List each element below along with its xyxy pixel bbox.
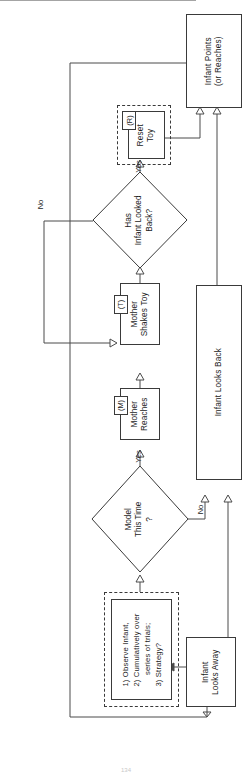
node-model-this-time[interactable]: Model This Time ? [92, 466, 188, 572]
flowchart-canvas: Infant Points (or Reaches) Reset Toy (R)… [0, 0, 252, 777]
node-mother-shakes-toy[interactable]: Mother Shakes Toy [120, 283, 160, 345]
node-mother-reaches-label: Mother Reaches [130, 397, 151, 431]
node-infant-points-label: Infant Points (or Reaches) [204, 36, 225, 86]
tag-mother-reaches: (M) [114, 396, 128, 415]
node-has-infant-looked-back-label: Has Infant Looked Back? [125, 195, 156, 245]
node-has-infant-looked-back[interactable]: Has Infant Looked Back? [93, 172, 187, 268]
node-mother-shakes-toy-label: Mother Shakes Toy [130, 292, 151, 336]
tag-mother-shakes-toy: (T) [114, 295, 128, 314]
node-model-this-time-label: Model This Time ? [125, 501, 156, 536]
node-observe-infant-label: 1) Observe Infant, 2) Cumulatively over … [120, 613, 164, 686]
tag-reset-toy: (R) [122, 111, 136, 130]
node-reset-toy-label: Reset Toy [136, 124, 157, 146]
edge-label-looked-back-no-text: No [36, 200, 45, 210]
node-infant-looks-back-label: Infant Looks Back [214, 348, 224, 416]
node-observe-infant[interactable]: 1) Observe Infant, 2) Cumulatively over … [111, 599, 172, 700]
node-infant-looks-away-label: Infant Looks Away [201, 649, 222, 695]
edge-label-looked-back-no: No [36, 200, 46, 209]
node-infant-points[interactable]: Infant Points (or Reaches) [186, 14, 242, 108]
node-infant-looks-away[interactable]: Infant Looks Away [186, 637, 236, 707]
edge-label-looked-back-yes-text: Yes [134, 160, 143, 172]
edge-label-looked-back-yes: Yes [132, 162, 144, 171]
tag-reset-toy-label: (R) [124, 115, 133, 125]
edge-label-model-yes-text: Yes [134, 450, 143, 462]
edge-label-model-yes: Yes [132, 452, 144, 461]
node-infant-looks-back[interactable]: Infant Looks Back [196, 285, 242, 480]
tag-mother-shakes-toy-label: (T) [117, 300, 126, 309]
edge-label-model-no-text: No [196, 505, 205, 515]
edge-label-model-no: No [196, 505, 206, 514]
tag-mother-reaches-label: (M) [117, 400, 126, 411]
